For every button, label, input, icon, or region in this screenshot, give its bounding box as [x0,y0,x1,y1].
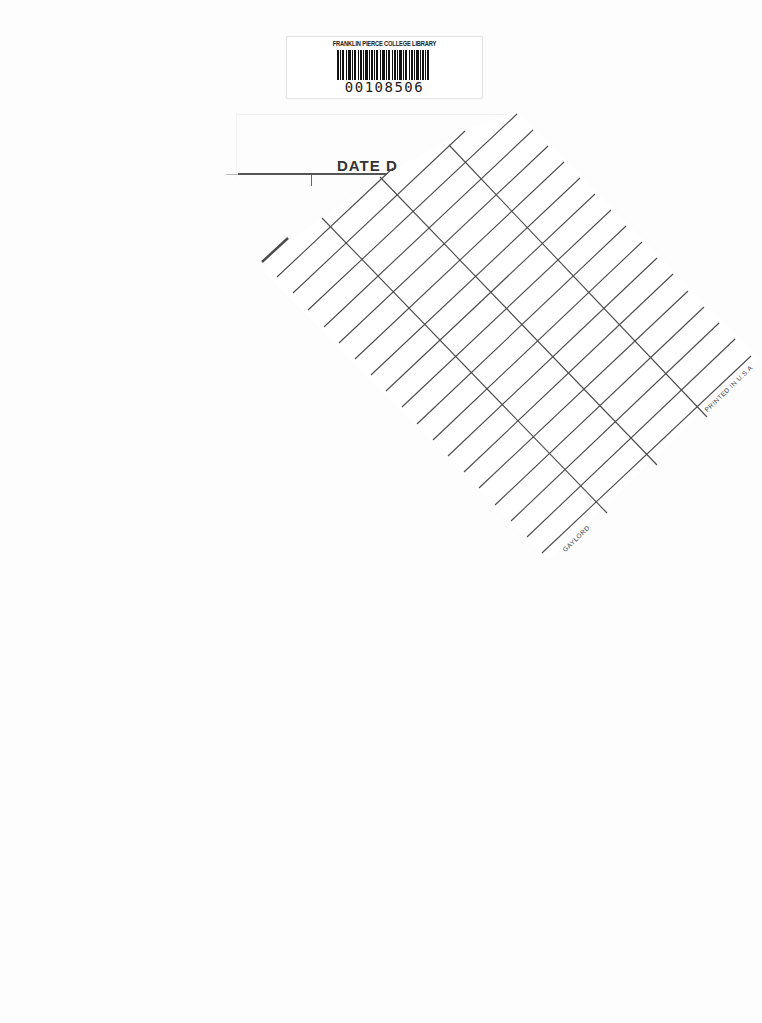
date-due-card [0,0,762,1023]
